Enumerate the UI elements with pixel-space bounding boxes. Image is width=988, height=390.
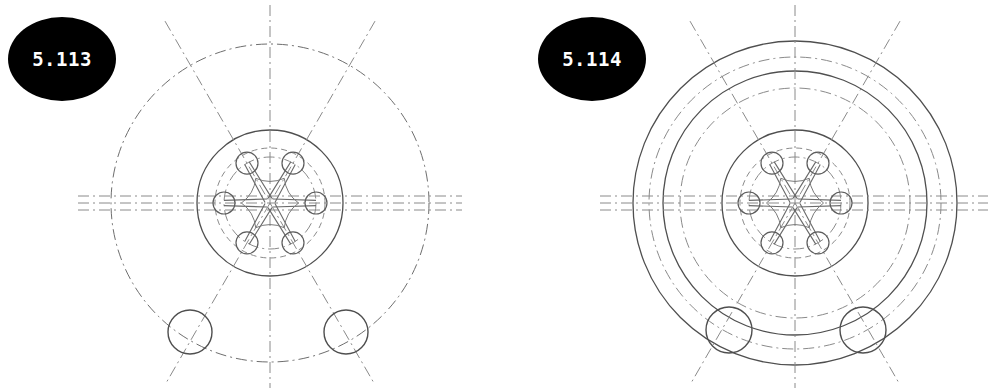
figure-number-badge-5113: 5.113 bbox=[8, 17, 116, 101]
figure-number-label: 5.114 bbox=[562, 50, 622, 69]
bolt-hole-right bbox=[324, 310, 368, 354]
bolt-hole-left bbox=[706, 307, 752, 353]
drawing-sheet: 5.113 5.114 bbox=[0, 0, 988, 390]
bolt-hole-right bbox=[840, 307, 886, 353]
figure-number-badge-5114: 5.114 bbox=[538, 17, 646, 101]
figure-number-label: 5.113 bbox=[32, 50, 92, 69]
bolt-hole-left bbox=[168, 310, 212, 354]
